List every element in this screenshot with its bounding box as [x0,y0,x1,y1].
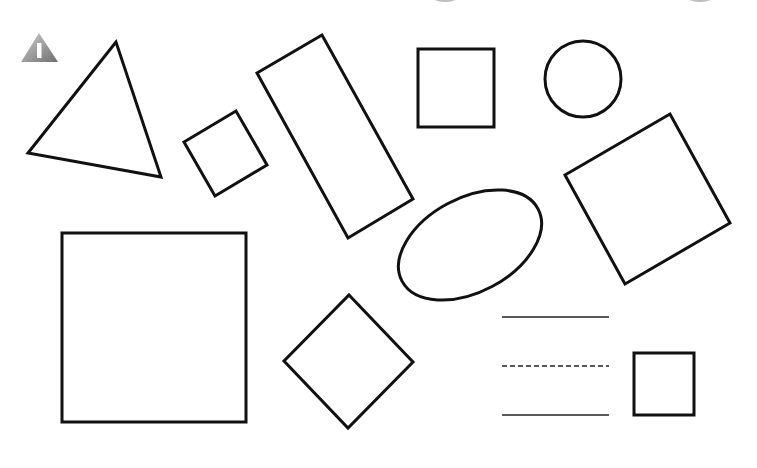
right-rotated-square-shape [565,114,730,284]
cropped-mark-2 [684,0,716,2]
warning-icon [21,33,58,62]
shapes-layer [28,35,730,428]
worksheet-canvas [0,0,757,468]
writing-lines [502,317,609,415]
cropped-mark-1 [429,0,461,2]
small-square-bottom-shape [634,353,694,415]
long-rectangle-shape [257,35,413,238]
small-rotated-square-shape [184,111,267,196]
cropped-top-marks [429,0,716,2]
diamond-shape [284,295,413,428]
triangle-shape [28,42,161,177]
square-top-shape [418,49,494,127]
circle-shape [545,41,621,117]
large-square-shape [62,233,246,422]
